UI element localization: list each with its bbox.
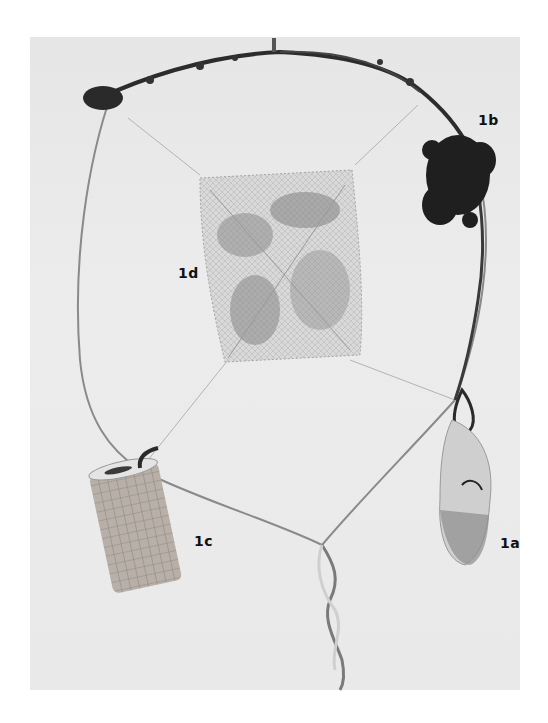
specimen-1a-mesh-bag: [440, 390, 491, 565]
specimen-1c-cylinder-container: [87, 448, 182, 594]
label-1d: 1d: [178, 265, 199, 281]
label-1a: 1a: [500, 535, 520, 551]
twisted-wire-handle: [319, 545, 344, 690]
specimen-1d-mesh-pouch: [200, 170, 362, 362]
specimen-hoop-illustration: [0, 0, 548, 723]
label-1b: 1b: [478, 112, 499, 128]
label-1c: 1c: [194, 533, 213, 549]
